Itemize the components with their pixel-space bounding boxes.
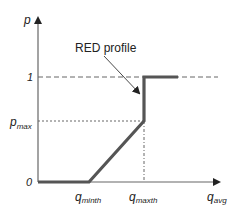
annotation-arrow	[104, 56, 139, 93]
annotation-label: RED profile	[75, 41, 137, 55]
red-profile-curve	[38, 77, 178, 182]
x-tick-qminth: qminth	[75, 190, 102, 205]
y-tick-one: 1	[27, 71, 33, 83]
y-tick-zero: 0	[26, 176, 33, 188]
x-tick-qmaxth: qmaxth	[129, 190, 158, 205]
y-tick-pmax: pmax	[9, 115, 33, 131]
x-axis-label: qavg	[207, 190, 227, 205]
red-profile-diagram: RED profile p 1 pmax 0 qminth qmaxth qav…	[0, 0, 235, 207]
y-axis-label: p	[23, 13, 31, 27]
